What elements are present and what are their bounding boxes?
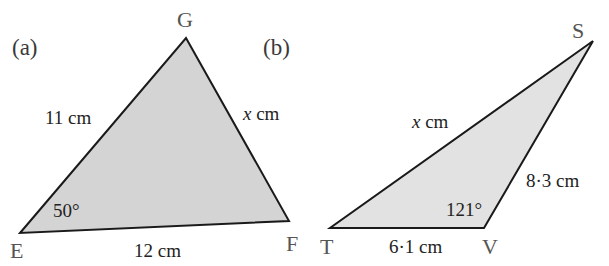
angle-v-value: 121° [446,200,482,219]
vertex-t-label: T [320,236,333,258]
figure-a-label: (a) [12,36,38,59]
side-ef-length: 12 cm [134,241,181,260]
side-ts-length: x cm [412,112,448,131]
angle-e-value: 50° [53,201,80,220]
side-gf-length: x cm [243,104,279,123]
side-ts-unit: cm [420,111,448,132]
vertex-v-label: V [482,236,498,258]
figure-b-label: (b) [263,36,290,59]
vertex-s-label: S [572,20,584,42]
diagram-shapes [0,0,609,266]
side-eg-length: 11 cm [45,108,91,127]
side-gf-unit: cm [251,103,279,124]
vertex-e-label: E [10,240,23,262]
side-tv-length: 6·1 cm [389,237,442,256]
triangle-diagrams: (a) G E F 11 cm x cm 50° 12 cm (b) S T V… [0,0,609,266]
vertex-g-label: G [177,9,193,31]
vertex-f-label: F [286,233,298,255]
side-vs-length: 8·3 cm [526,171,579,190]
